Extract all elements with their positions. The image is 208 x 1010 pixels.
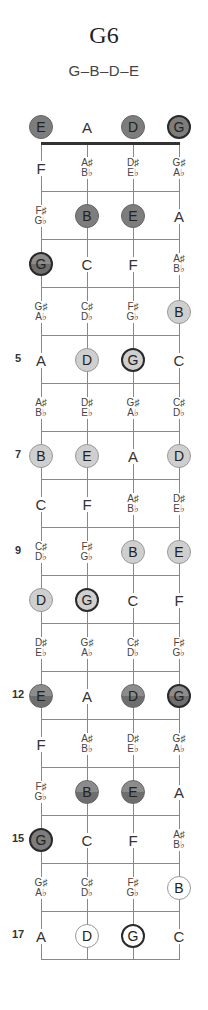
fret-cell: G♯A♭ <box>113 388 153 428</box>
fret-line-9 <box>41 575 179 576</box>
fret-cell: F <box>159 580 199 620</box>
enharmonic-note-label: C♯D♭ <box>80 877 94 899</box>
fret-cell: G♯A♭ <box>21 292 61 332</box>
fret-cell: B <box>67 772 107 812</box>
chord-tone-marker: E <box>75 444 99 468</box>
flat-name: A♭ <box>127 408 140 418</box>
flat-name: G♭ <box>127 312 140 322</box>
flat-name: D♭ <box>81 312 93 322</box>
note-label: C <box>81 257 94 272</box>
enharmonic-note-label: A♯B♭ <box>126 493 140 515</box>
fret-cell: D <box>113 107 153 147</box>
root-note-marker: G <box>121 924 145 948</box>
fret-cell: C <box>159 916 199 956</box>
root-note-marker: G <box>167 115 191 139</box>
fret-line-2 <box>41 239 179 240</box>
enharmonic-note-label: A♯B♭ <box>80 157 94 179</box>
note-label: C <box>81 833 94 848</box>
enharmonic-note-label: G♯A♭ <box>172 733 187 755</box>
note-label: A <box>173 209 185 224</box>
fret-cell: C <box>67 244 107 284</box>
fret-cell: D♯E♭ <box>159 484 199 524</box>
fret-line-16 <box>41 911 179 912</box>
fret-line-12 <box>41 719 179 720</box>
flat-name: D♭ <box>173 408 185 418</box>
chord-tone-marker: E <box>121 204 145 228</box>
fret-cell: B <box>67 196 107 236</box>
fret-cell: E <box>67 436 107 476</box>
flat-name: A♭ <box>81 648 94 658</box>
fret-cell: D <box>113 676 153 716</box>
fret-cell: A <box>21 916 61 956</box>
note-label: F <box>127 833 138 848</box>
fret-cell: A♯B♭ <box>21 388 61 428</box>
fret-cell: A <box>67 676 107 716</box>
fret-cell: C♯D♭ <box>67 292 107 332</box>
note-label: C <box>173 929 186 944</box>
chord-tone-marker: D <box>75 924 99 948</box>
fret-line-14 <box>41 815 179 816</box>
fret-cell: A <box>159 196 199 236</box>
fret-cell: C <box>113 580 153 620</box>
enharmonic-note-label: F♯G♭ <box>34 781 49 803</box>
fret-cell: E <box>113 772 153 812</box>
enharmonic-note-label: D♯E♭ <box>126 157 140 179</box>
fret-line-15 <box>41 863 179 864</box>
fret-cell: F <box>113 244 153 284</box>
note-label: F <box>35 737 46 752</box>
fret-cell: A <box>21 340 61 380</box>
enharmonic-note-label: G♯A♭ <box>34 877 49 899</box>
fret-cell: F♯G♭ <box>113 292 153 332</box>
flat-name: B♭ <box>35 408 47 418</box>
note-label: F <box>35 161 46 176</box>
note-label: C <box>127 593 140 608</box>
fret-line-17 <box>41 959 179 960</box>
fret-cell: G <box>159 676 199 716</box>
chord-tone-marker: B <box>75 780 99 804</box>
enharmonic-note-label: G♯A♭ <box>172 157 187 179</box>
fret-cell: G♯A♭ <box>159 148 199 188</box>
root-note-marker: G <box>121 348 145 372</box>
flat-name: B♭ <box>173 840 185 850</box>
fret-line-10 <box>41 623 179 624</box>
fret-cell: G <box>21 820 61 860</box>
chord-tone-marker: E <box>121 780 145 804</box>
chord-tone-marker: E <box>29 115 53 139</box>
fret-cell: D♯E♭ <box>113 724 153 764</box>
fret-cell: C♯D♭ <box>67 868 107 908</box>
root-note-marker: G <box>167 684 191 708</box>
enharmonic-note-label: A♯B♭ <box>172 829 186 851</box>
chord-tone-marker: D <box>167 444 191 468</box>
enharmonic-note-label: F♯G♭ <box>34 205 49 227</box>
flat-name: A♭ <box>35 888 48 898</box>
note-label: A <box>81 689 93 704</box>
flat-name: G♭ <box>35 216 48 226</box>
fret-cell: G <box>159 107 199 147</box>
fret-cell: C♯D♭ <box>113 628 153 668</box>
chord-tone-marker: B <box>121 540 145 564</box>
fret-cell: G♯A♭ <box>67 628 107 668</box>
note-label: F <box>127 257 138 272</box>
fret-line-5 <box>41 383 179 384</box>
flat-name: G♭ <box>35 792 48 802</box>
chord-tone-marker: D <box>121 684 145 708</box>
fret-cell: F♯G♭ <box>21 772 61 812</box>
fret-cell: A♯B♭ <box>159 820 199 860</box>
fret-cell: C♯D♭ <box>21 532 61 572</box>
fret-cell: C <box>67 820 107 860</box>
enharmonic-note-label: F♯G♭ <box>172 637 187 659</box>
flat-name: E♭ <box>173 504 185 514</box>
fret-cell: F♯G♭ <box>67 532 107 572</box>
fret-cell: B <box>113 532 153 572</box>
fret-cell: A♯B♭ <box>113 484 153 524</box>
fret-cell: F♯G♭ <box>159 628 199 668</box>
fret-cell: F <box>113 820 153 860</box>
note-label: F <box>173 593 184 608</box>
fret-cell: A♯B♭ <box>67 148 107 188</box>
enharmonic-note-label: C♯D♭ <box>80 301 94 323</box>
fret-cell: D♯E♭ <box>67 388 107 428</box>
chord-tone-marker: D <box>29 588 53 612</box>
fret-cell: A <box>67 107 107 147</box>
chord-tone-marker: B <box>75 204 99 228</box>
flat-name: B♭ <box>127 504 139 514</box>
